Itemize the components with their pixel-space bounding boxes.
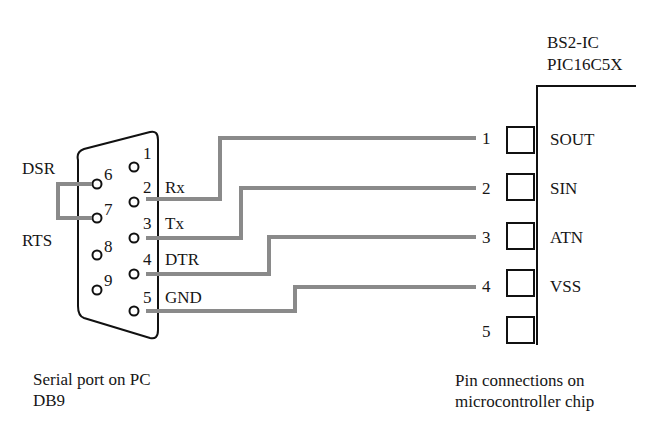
wire-dsr-rts-loop bbox=[58, 184, 92, 218]
db9-caption-line1: Serial port on PC bbox=[33, 369, 151, 390]
db9-pin-number-8: 8 bbox=[104, 238, 113, 255]
db9-pin-1 bbox=[130, 163, 139, 172]
chip-body bbox=[537, 86, 636, 345]
label-rts: RTS bbox=[22, 232, 52, 249]
label-dsr: DSR bbox=[22, 160, 55, 177]
label-tx: Tx bbox=[165, 215, 184, 232]
chip-pin-number-1: 1 bbox=[482, 130, 491, 147]
db9-pin-3 bbox=[130, 234, 139, 243]
label-gnd: GND bbox=[165, 289, 202, 306]
chip-caption-line1: Pin connections on bbox=[455, 370, 594, 391]
chip-pin-2-box bbox=[507, 174, 534, 200]
db9-pin-number-5: 5 bbox=[143, 289, 152, 306]
db9-pin-7 bbox=[93, 214, 102, 223]
label-rx: Rx bbox=[165, 179, 185, 196]
chip-pin-label-sin: SIN bbox=[550, 180, 577, 197]
db9-pins bbox=[93, 163, 139, 316]
db9-pin-number-2: 2 bbox=[143, 179, 152, 196]
chip-pin-label-atn: ATN bbox=[550, 229, 583, 246]
db9-pin-2 bbox=[130, 198, 139, 207]
chip-pin-3-box bbox=[507, 223, 534, 249]
chip-pin-number-4: 4 bbox=[482, 278, 491, 295]
chip-pin-1-box bbox=[507, 127, 534, 153]
db9-pin-4 bbox=[130, 270, 139, 279]
db9-pin-number-1: 1 bbox=[143, 145, 152, 162]
db9-pin-8 bbox=[93, 251, 102, 260]
db9-pin-9 bbox=[93, 286, 102, 295]
chip-pin-number-5: 5 bbox=[482, 323, 491, 340]
chip-pin-4-box bbox=[507, 270, 534, 296]
chip-pin-label-sout: SOUT bbox=[550, 131, 594, 148]
db9-pin-number-3: 3 bbox=[143, 215, 152, 232]
chip-pin-label-vss: VSS bbox=[550, 278, 581, 295]
chip-pin-boxes bbox=[507, 127, 534, 343]
chip-caption: Pin connections on microcontroller chip bbox=[455, 370, 594, 412]
db9-pin-5 bbox=[130, 307, 139, 316]
chip-title-line1: BS2-IC bbox=[547, 34, 599, 51]
chip-pin-number-2: 2 bbox=[482, 180, 491, 197]
db9-caption-line2: DB9 bbox=[33, 390, 151, 411]
db9-pin-number-7: 7 bbox=[104, 201, 113, 218]
chip-pin-5-box bbox=[507, 317, 534, 343]
chip-caption-line2: microcontroller chip bbox=[455, 391, 594, 412]
db9-pin-6 bbox=[93, 180, 102, 189]
db9-pin-number-9: 9 bbox=[104, 272, 113, 289]
db9-pin-number-6: 6 bbox=[104, 166, 113, 183]
chip-title-line2: PIC16C5X bbox=[547, 56, 623, 73]
wires bbox=[58, 138, 476, 311]
label-dtr: DTR bbox=[165, 251, 199, 268]
wire-tx-sin bbox=[146, 188, 476, 238]
db9-pin-number-4: 4 bbox=[143, 251, 152, 268]
chip-pin-number-3: 3 bbox=[482, 229, 491, 246]
db9-caption: Serial port on PC DB9 bbox=[33, 369, 151, 411]
